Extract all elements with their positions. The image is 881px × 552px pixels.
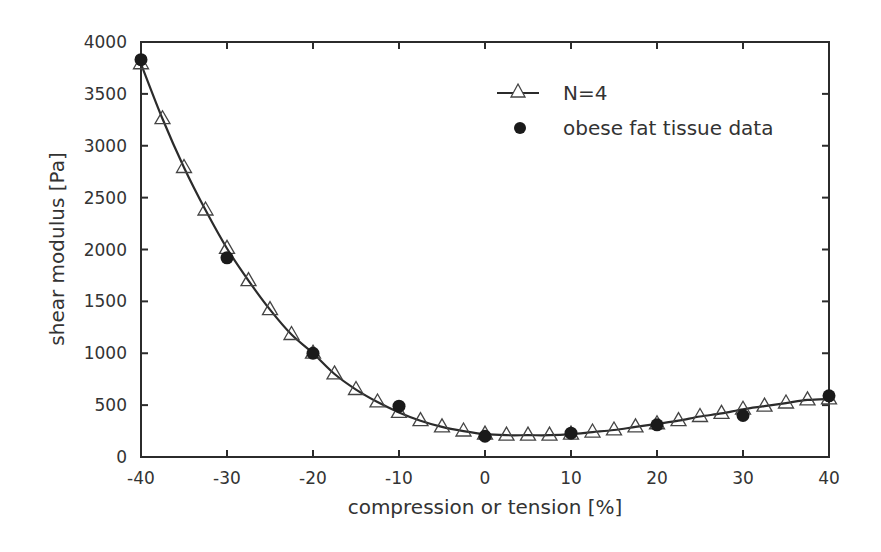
- x-tick-label: -10: [385, 468, 413, 488]
- triangle-marker-icon: [511, 84, 525, 97]
- y-tick-label: 2500: [84, 188, 127, 208]
- data-point: [737, 409, 750, 422]
- x-tick-label: -30: [213, 468, 241, 488]
- data-point: [221, 251, 234, 264]
- series-obese-fat-tissue-data: [135, 53, 836, 443]
- legend: N=4 obese fat tissue data: [497, 81, 773, 140]
- data-point: [307, 347, 320, 360]
- x-tick-label: 30: [732, 468, 754, 488]
- legend-item-n4: N=4: [497, 81, 607, 105]
- legend-label-obese-fat-tissue-data: obese fat tissue data: [563, 116, 773, 140]
- triangle-marker: [499, 427, 514, 440]
- y-tick-label: 1000: [84, 343, 127, 363]
- x-axis-ticks: -40-30-20-10010203040: [127, 42, 840, 488]
- x-axis-label: compression or tension [%]: [348, 495, 623, 519]
- legend-item-obese-fat-tissue-data: obese fat tissue data: [514, 116, 773, 140]
- data-point: [651, 418, 664, 431]
- legend-label-n4: N=4: [563, 81, 607, 105]
- triangle-marker: [800, 392, 815, 405]
- data-point: [135, 53, 148, 66]
- y-tick-label: 1500: [84, 291, 127, 311]
- y-tick-label: 0: [116, 447, 127, 467]
- y-tick-label: 3500: [84, 84, 127, 104]
- x-tick-label: 40: [818, 468, 840, 488]
- plot-frame: [141, 42, 829, 457]
- plot-border: [141, 42, 829, 457]
- data-point: [565, 427, 578, 440]
- x-tick-label: -20: [299, 468, 327, 488]
- series-n4-markers: [134, 56, 837, 440]
- y-tick-label: 2000: [84, 240, 127, 260]
- y-axis-ticks: 05001000150020002500300035004000: [84, 32, 829, 467]
- filled-circle-icon: [514, 122, 526, 134]
- y-tick-label: 500: [95, 395, 127, 415]
- y-tick-label: 3000: [84, 136, 127, 156]
- x-tick-label: 10: [560, 468, 582, 488]
- y-axis-label: shear modulus [Pa]: [45, 152, 69, 345]
- chart: 05001000150020002500300035004000 -40-30-…: [0, 0, 881, 552]
- data-point: [823, 389, 836, 402]
- x-tick-label: 0: [480, 468, 491, 488]
- x-tick-label: 20: [646, 468, 668, 488]
- y-tick-label: 4000: [84, 32, 127, 52]
- x-tick-label: -40: [127, 468, 155, 488]
- triangle-marker: [521, 427, 536, 440]
- data-point: [479, 430, 492, 443]
- triangle-marker: [542, 427, 557, 440]
- data-point: [393, 400, 406, 413]
